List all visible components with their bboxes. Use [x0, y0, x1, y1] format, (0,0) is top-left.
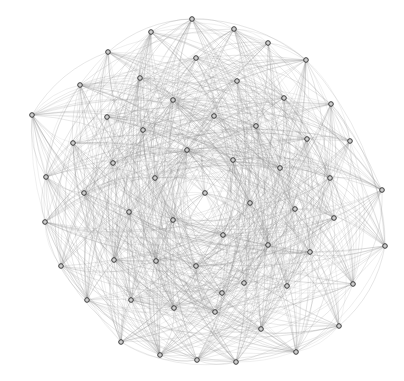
- graph-node: [242, 281, 247, 286]
- graph-node: [332, 216, 337, 221]
- graph-node: [203, 191, 208, 196]
- graph-node: [153, 176, 158, 181]
- graph-node: [328, 176, 333, 181]
- graph-node: [254, 124, 259, 129]
- graph-node: [44, 175, 49, 180]
- graph-node: [105, 115, 110, 120]
- graph-node: [278, 166, 283, 171]
- graph-node: [213, 310, 218, 315]
- graph-node: [85, 298, 90, 303]
- graph-node: [337, 324, 342, 329]
- graph-node: [383, 244, 388, 249]
- graph-node: [141, 128, 146, 133]
- graph-node: [266, 243, 271, 248]
- graph-node: [71, 141, 76, 146]
- graph-node: [190, 17, 195, 22]
- graph-node: [138, 76, 143, 81]
- graph-node: [112, 258, 117, 263]
- graph-node: [185, 148, 190, 153]
- graph-node: [212, 114, 217, 119]
- graph-node: [294, 350, 299, 355]
- graph-node: [293, 207, 298, 212]
- graph-node: [348, 139, 353, 144]
- graph-node: [171, 98, 176, 103]
- graph-node: [235, 79, 240, 84]
- graph-node: [106, 50, 111, 55]
- graph-node: [158, 353, 163, 358]
- graph-node: [234, 360, 239, 365]
- graph-node: [129, 298, 134, 303]
- graph-node: [59, 264, 64, 269]
- graph-node: [127, 210, 132, 215]
- graph-node: [111, 161, 116, 166]
- graph-node: [285, 284, 290, 289]
- graph-node: [220, 291, 225, 296]
- graph-node: [82, 191, 87, 196]
- graph-node: [308, 250, 313, 255]
- graph-node: [78, 83, 83, 88]
- graph-node: [172, 306, 177, 311]
- graph-node: [221, 233, 226, 238]
- graph-node: [171, 218, 176, 223]
- graph-node: [194, 264, 199, 269]
- graph-node: [231, 158, 236, 163]
- graph-node: [154, 259, 159, 264]
- graph-node: [304, 58, 309, 63]
- graph-node: [351, 282, 356, 287]
- graph-node: [119, 340, 124, 345]
- graph-node: [232, 27, 237, 32]
- graph-node: [282, 96, 287, 101]
- graph-node: [305, 137, 310, 142]
- graph-node: [30, 113, 35, 118]
- graph-node: [149, 30, 154, 35]
- graph-node: [248, 201, 253, 206]
- graph-node: [194, 56, 199, 61]
- graph-node: [266, 41, 271, 46]
- network-graph: [0, 0, 404, 381]
- graph-node: [329, 102, 334, 107]
- graph-node: [380, 188, 385, 193]
- graph-node: [259, 327, 264, 332]
- graph-node: [43, 220, 48, 225]
- graph-node: [195, 358, 200, 363]
